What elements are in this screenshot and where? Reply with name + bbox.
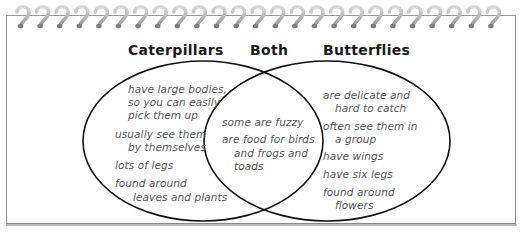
caterpillar-fact-line: pick them up (128, 109, 198, 121)
caterpillar-fact-line: usually see them (115, 128, 206, 140)
caterpillar-fact-line: lots of legs (115, 159, 173, 171)
butterfly-fact-line: a group (335, 133, 376, 145)
shared-fact-line: some are fuzzy (222, 116, 303, 128)
butterfly-fact-line: found around (323, 186, 395, 198)
shared-fact-line: toads (234, 160, 264, 172)
both-header: Both (250, 42, 288, 58)
caterpillars-header: Caterpillars (128, 42, 224, 58)
caterpillar-fact-line: leaves and plants (133, 191, 227, 203)
butterflies-header: Butterflies (323, 42, 410, 58)
butterfly-fact-line: have wings (323, 150, 383, 162)
caterpillar-fact-line: found around (115, 177, 187, 189)
butterfly-fact-line: are delicate and (323, 89, 410, 101)
butterfly-fact-line: hard to catch (335, 102, 406, 114)
butterfly-fact-line: flowers (335, 199, 374, 211)
shared-fact-line: and frogs and (234, 147, 308, 159)
butterfly-fact-line: have six legs (323, 168, 393, 180)
shared-fact-line: are food for birds (222, 133, 315, 145)
caterpillar-fact-line: so you can easily (128, 96, 220, 108)
caterpillar-fact-line: have large bodies, (128, 83, 227, 95)
butterfly-fact-line: often see them in (323, 120, 418, 132)
caterpillar-fact-line: by themselves (128, 141, 206, 153)
